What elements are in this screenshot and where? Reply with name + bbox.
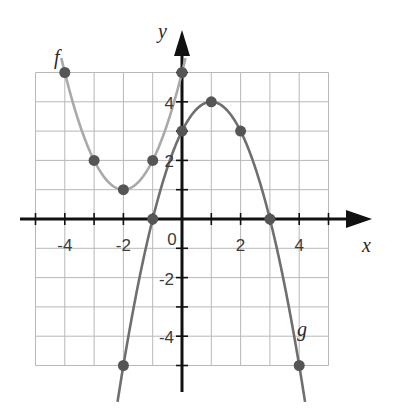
y-tick-label: -2 xyxy=(159,270,174,289)
x-axis-arrow-icon xyxy=(346,210,372,228)
point-g xyxy=(118,360,129,371)
point-f xyxy=(177,67,188,78)
axes xyxy=(20,30,372,392)
point-g xyxy=(177,126,188,137)
point-f xyxy=(89,155,100,166)
origin-label: 0 xyxy=(167,230,176,249)
point-g xyxy=(294,360,305,371)
point-g xyxy=(235,126,246,137)
x-tick-label: -2 xyxy=(116,236,131,255)
point-g xyxy=(264,214,275,225)
point-g xyxy=(206,96,217,107)
point-f xyxy=(59,67,70,78)
x-tick-label: 2 xyxy=(236,236,245,255)
point-g xyxy=(147,214,158,225)
y-tick-label: 4 xyxy=(165,94,174,113)
function-f-label: f xyxy=(54,46,62,69)
y-tick-label: -4 xyxy=(159,328,174,347)
y-tick-label: 2 xyxy=(165,152,174,171)
y-axis-label: y xyxy=(156,20,167,43)
coordinate-plane: -4-224042-2-4 x y f g xyxy=(0,0,395,413)
x-tick-label: -4 xyxy=(57,236,72,255)
function-g-label: g xyxy=(297,318,307,341)
x-axis-label: x xyxy=(361,234,371,256)
point-f xyxy=(147,155,158,166)
x-tick-label: 4 xyxy=(294,236,303,255)
point-f xyxy=(118,184,129,195)
y-axis-arrow-icon xyxy=(174,30,190,56)
